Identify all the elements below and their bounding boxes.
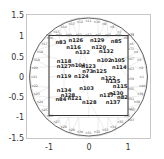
square-node-label: n59	[128, 77, 134, 81]
y-tick-label: 0	[19, 73, 24, 82]
boundary-node-label: n39	[137, 92, 143, 96]
boundary-node-label: n22	[32, 84, 38, 88]
node-label: n121	[67, 95, 82, 101]
boundary-node-label: n19	[34, 58, 40, 62]
y-tick-label: 1.5	[11, 11, 24, 20]
y-tick-label: -1	[16, 113, 24, 122]
boundary-node-label: n35	[117, 120, 123, 124]
x-tick-label: 1	[125, 143, 130, 152]
node-label: n115	[113, 83, 128, 89]
square-node-label: n71	[128, 47, 134, 51]
boundary-node-label: n2	[139, 66, 143, 70]
square-node-label: n51	[128, 97, 134, 101]
square-node-label: n45	[56, 33, 62, 37]
boundary-node-label: n25	[42, 108, 48, 112]
node-label: n126	[69, 37, 84, 43]
node-label: n129	[90, 37, 105, 43]
node-label: n125	[92, 68, 107, 74]
boundary-node-label: n29	[69, 128, 75, 132]
boundary-node-label: n17	[42, 42, 48, 46]
boundary-node-label: n3	[137, 58, 141, 62]
square-node-label: n55	[128, 87, 134, 91]
y-tick-label: 0.5	[11, 53, 24, 62]
node-label: n83	[55, 39, 66, 45]
node-label: n124	[74, 73, 89, 79]
mesh-plot: n1n2n3n4n5n6n7n8n9n10n11n12n13n14n15n16n…	[0, 0, 164, 159]
x-tick-label: 0	[86, 143, 91, 152]
y-axis-ticks: 1.510.50-0.5-1-1.5	[8, 11, 24, 143]
node-label: n132	[99, 48, 114, 54]
square-node-label: n41	[46, 33, 52, 37]
boundary-node-label: n33	[102, 128, 108, 132]
node-label: n132	[75, 49, 90, 55]
node-label: n84	[55, 96, 66, 102]
boundary-node-label: n38	[134, 100, 140, 104]
boundary-node-label: n20	[32, 66, 38, 70]
boundary-node-label: n24	[37, 100, 43, 104]
boundary-node-label: n1	[140, 75, 144, 79]
square-node-label: n63	[128, 67, 134, 71]
square-node-label: n67	[128, 57, 134, 61]
boundary-node-label: n40	[139, 84, 145, 88]
y-tick-label: -0.5	[8, 93, 24, 102]
boundary-node-label: n32	[94, 130, 100, 134]
boundary-node-label: n27	[54, 120, 60, 124]
boundary-node-label: n13	[69, 22, 75, 26]
x-tick-label: -1	[45, 143, 53, 152]
node-label: n137	[106, 99, 121, 105]
boundary-node-label: n8	[110, 25, 114, 29]
square-node-label: n69	[115, 33, 121, 37]
boundary-node-label: n34	[110, 125, 116, 129]
node-label: n105	[110, 57, 125, 63]
square-node-label: n43	[128, 118, 134, 122]
boundary-node-label: n30	[77, 130, 83, 134]
boundary-node-label: n12	[77, 20, 83, 24]
square-node-label: n75	[128, 33, 134, 37]
node-label: n119	[57, 73, 72, 79]
boundary-node-label: n11	[86, 19, 92, 23]
node-label: n114	[112, 64, 127, 70]
node-label: n103	[79, 85, 94, 91]
boundary-node-label: n18	[37, 50, 43, 54]
boundary-node-label: n26	[47, 114, 53, 118]
y-tick-label: -1.5	[8, 134, 24, 143]
boundary-node-label: n10	[94, 20, 100, 24]
boundary-node-label: n23	[34, 92, 40, 96]
node-label: n127	[57, 63, 72, 69]
boundary-node-label: n14	[61, 25, 67, 29]
node-label: n85	[111, 38, 122, 44]
node-label: n128	[82, 99, 97, 105]
boundary-node-label: n9	[102, 22, 106, 26]
boundary-node-label: n28	[61, 125, 67, 129]
boundary-node-label: n31	[86, 131, 92, 135]
boundary-node-label: n4	[134, 50, 138, 54]
square-node-label: n47	[128, 107, 134, 111]
boundary-node-label: n21	[31, 75, 37, 79]
interior-node-labels: n83n126n129n85n116n120n132n132n118n127n1…	[55, 37, 128, 105]
boundary-node-label: n5	[129, 42, 133, 46]
y-tick-label: 1	[19, 32, 24, 41]
x-axis-ticks: -101	[45, 143, 131, 152]
square-node-label: n65	[105, 33, 111, 37]
